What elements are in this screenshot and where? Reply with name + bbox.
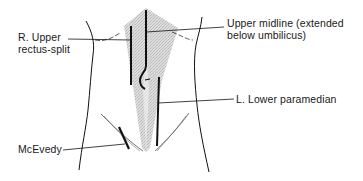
label-r-upper-line2: rectus-split	[18, 43, 70, 55]
label-l-lower-line1: L. Lower paramedian	[236, 93, 337, 105]
torso-outline-right	[194, 17, 209, 172]
label-r-upper-rectus-split: R. Upper rectus-split	[18, 31, 70, 55]
label-r-upper-line1: R. Upper	[18, 31, 70, 43]
label-upper-midline-line2: below umbilicus)	[227, 29, 344, 41]
label-l-lower-paramedian: L. Lower paramedian	[236, 93, 337, 105]
rectus-sheath-shading	[124, 8, 178, 152]
label-upper-midline: Upper midline (extended below umbilicus)	[227, 17, 344, 41]
label-upper-midline-line1: Upper midline (extended	[227, 17, 344, 29]
incision-mcevedy	[119, 127, 129, 149]
leader-r-upper-rectus-split	[68, 39, 131, 40]
inguinal-line-right-2	[157, 116, 186, 151]
leader-mcevedy	[63, 144, 125, 150]
label-mcevedy: McEvedy	[18, 143, 62, 155]
label-mcevedy-line1: McEvedy	[18, 143, 62, 155]
